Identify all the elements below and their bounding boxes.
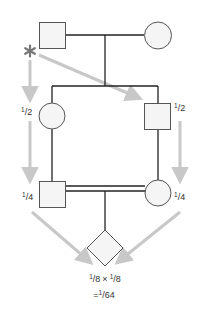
arrow-right-gen3-to-result — [118, 212, 180, 262]
result-value: =1/64 — [93, 289, 114, 300]
pedigree-diagram: 1/2 1/2 1/4 1/4 1/8×1/8 =1/64 — [0, 0, 198, 315]
pedigree-lines — [52, 35, 158, 230]
arrow-left-gen3-to-result — [32, 212, 90, 262]
gen2-female-circle — [39, 103, 65, 129]
label-right-gen3: 1/4 — [174, 191, 185, 202]
gen3-female-circle — [145, 180, 171, 206]
gen1-female-circle — [145, 22, 172, 49]
asterisk-icon — [25, 46, 35, 57]
label-right-gen2: 1/2 — [174, 102, 185, 113]
label-left-gen2: 1/2 — [21, 106, 32, 117]
label-left-gen3: 1/4 — [22, 191, 33, 202]
result-product: 1/8×1/8 — [89, 273, 121, 284]
gen2-male-square — [145, 104, 171, 130]
gen1-male-square — [40, 23, 66, 49]
arrow-asterisk-to-right-gen2 — [39, 55, 139, 98]
gen3-male-square — [40, 182, 66, 208]
